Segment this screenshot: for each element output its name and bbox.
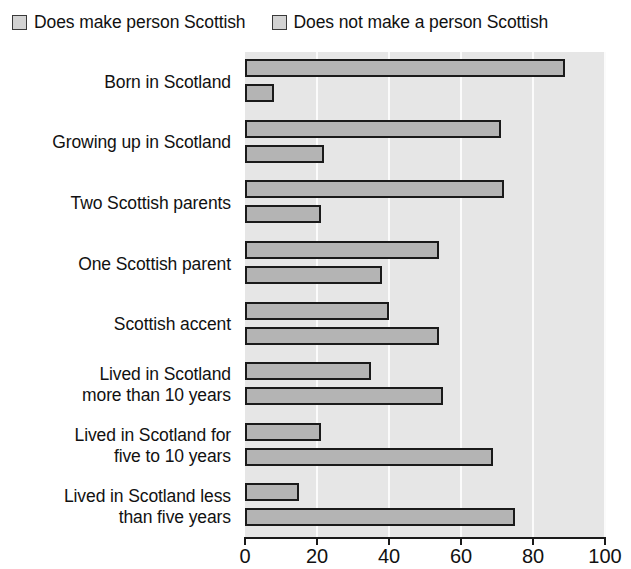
x-axis-tick-label: 40	[359, 544, 419, 568]
bar-group	[245, 355, 605, 416]
category-label-line: Lived in Scotland for	[0, 425, 231, 446]
category-label: Two Scottish parents	[0, 193, 238, 214]
category-label: One Scottish parent	[0, 254, 238, 275]
bar-does-not-make	[245, 508, 515, 526]
bar-does-not-make	[245, 448, 493, 466]
bar-does-make	[245, 302, 389, 320]
category-axis-labels: Born in ScotlandGrowing up in ScotlandTw…	[0, 52, 238, 537]
category-label-line: Growing up in Scotland	[0, 132, 231, 153]
category-label: Lived in Scotlandmore than 10 years	[0, 364, 238, 406]
category-label-line: One Scottish parent	[0, 254, 231, 275]
category-label-line: Born in Scotland	[0, 72, 231, 93]
bar-does-not-make	[245, 387, 443, 405]
x-axis-tick-label: 80	[503, 544, 563, 568]
bar-does-make	[245, 120, 501, 138]
category-label-line: than five years	[0, 507, 231, 528]
legend-entry: Does not make a person Scottish	[272, 13, 549, 32]
bar-does-not-make	[245, 266, 382, 284]
bar-group	[245, 52, 605, 113]
category-label: Lived in Scotland forfive to 10 years	[0, 425, 238, 467]
legend-swatch-does-make	[12, 15, 27, 30]
category-label: Lived in Scotland lessthan five years	[0, 486, 238, 528]
x-axis-tick-label: 60	[431, 544, 491, 568]
category-label: Born in Scotland	[0, 72, 238, 93]
bar-does-make	[245, 180, 504, 198]
legend-label: Does not make a person Scottish	[294, 13, 549, 32]
category-label-line: five to 10 years	[0, 446, 231, 467]
x-axis-tick-label: 20	[287, 544, 347, 568]
bar-does-not-make	[245, 145, 324, 163]
bar-does-make	[245, 362, 371, 380]
chart-legend: Does make person ScottishDoes not make a…	[0, 0, 631, 44]
bar-does-make	[245, 59, 565, 77]
bar-groups	[245, 52, 605, 537]
bar-group	[245, 476, 605, 537]
bar-does-not-make	[245, 205, 321, 223]
bar-does-not-make	[245, 327, 439, 345]
bar-does-make	[245, 241, 439, 259]
category-label-line: Lived in Scotland	[0, 364, 231, 385]
category-label-line: Scottish accent	[0, 314, 231, 335]
x-axis-line	[245, 537, 606, 539]
x-axis-tick-label: 0	[215, 544, 275, 568]
bar-does-make	[245, 483, 299, 501]
legend-label: Does make person Scottish	[34, 13, 246, 32]
category-label-line: more than 10 years	[0, 385, 231, 406]
category-label-line: Lived in Scotland less	[0, 486, 231, 507]
bar-chart: Does make person ScottishDoes not make a…	[0, 0, 631, 569]
bar-group	[245, 416, 605, 477]
bar-does-not-make	[245, 84, 274, 102]
bar-does-make	[245, 423, 321, 441]
bar-group	[245, 113, 605, 174]
legend-entry: Does make person Scottish	[12, 13, 246, 32]
category-label: Growing up in Scotland	[0, 132, 238, 153]
category-label-line: Two Scottish parents	[0, 193, 231, 214]
bar-group	[245, 173, 605, 234]
legend-swatch-does-not-make	[272, 15, 287, 30]
bar-group	[245, 295, 605, 356]
x-axis-tick-label: 100	[575, 544, 631, 568]
category-label: Scottish accent	[0, 314, 238, 335]
bar-group	[245, 234, 605, 295]
